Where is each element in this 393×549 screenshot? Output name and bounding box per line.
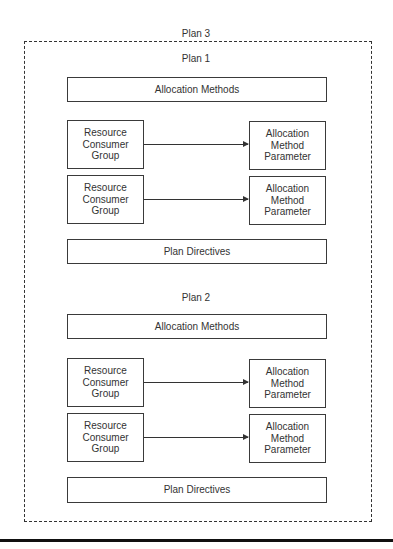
plan-3-border-bottom (24, 521, 372, 522)
plan-2-resource-consumer-group-1: Resource Consumer Group (67, 358, 144, 407)
plan-2-resource-consumer-group-2: Resource Consumer Group (67, 413, 144, 462)
plan-3-border-right (371, 41, 372, 522)
plan-1-allocation-methods: Allocation Methods (67, 77, 327, 102)
plan-1-resource-consumer-group-1: Resource Consumer Group (67, 120, 144, 169)
plan-2-arrow-1 (144, 382, 248, 383)
plan-1-arrow-2 (144, 199, 248, 200)
plan-3-border-left (24, 41, 25, 522)
plan-1-resource-consumer-group-2: Resource Consumer Group (67, 175, 144, 224)
plan-1-allocation-method-parameter-1: Allocation Method Parameter (249, 121, 326, 170)
plan-2-allocation-method-parameter-1: Allocation Method Parameter (249, 359, 326, 408)
plan-1-allocation-method-parameter-2: Allocation Method Parameter (249, 176, 326, 225)
plan-3-border-top (24, 41, 372, 42)
plan-2-label: Plan 2 (146, 292, 246, 303)
plan-2-allocation-methods: Allocation Methods (67, 314, 327, 339)
plan-2-plan-directives: Plan Directives (67, 477, 327, 503)
plan-1-label: Plan 1 (146, 53, 246, 64)
plan-2-arrow-2 (144, 437, 248, 438)
plan-1-plan-directives: Plan Directives (67, 239, 327, 264)
page-rule (0, 539, 393, 542)
plan-3-label: Plan 3 (146, 28, 246, 39)
plan-2-allocation-method-parameter-2: Allocation Method Parameter (249, 414, 326, 463)
plan-1-arrow-1 (144, 144, 248, 145)
